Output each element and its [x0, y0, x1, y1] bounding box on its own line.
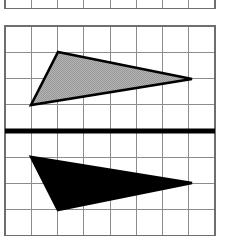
- reflection-diagram: [0, 0, 226, 236]
- figure-canvas: [0, 0, 226, 236]
- figure-background: [0, 0, 226, 236]
